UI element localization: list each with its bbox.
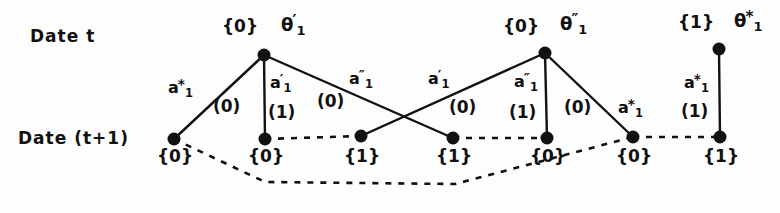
state-label-theta-double-prime: {0} (503, 18, 539, 35)
node-theta-star (713, 43, 726, 56)
action-label-a-star-1: a*1 (168, 78, 193, 99)
state-label-b4: {1} (436, 148, 472, 165)
solid-edge-group (174, 49, 720, 139)
solid-edge-e-theta1-b2 (264, 55, 265, 139)
state-label-b2: {0} (248, 148, 284, 165)
state-label-b6: {0} (616, 148, 652, 165)
node-b4 (447, 132, 460, 145)
theta-label-theta-double-prime: θ″1 (560, 13, 587, 36)
row-label-date-t: Date t (30, 28, 95, 45)
solid-edge-e-theta3-b7 (719, 49, 720, 137)
node-b2 (259, 133, 272, 146)
action-label-a-prime-2: a′1 (428, 69, 449, 90)
state-label-theta-star: {1} (678, 14, 714, 31)
node-theta-prime (258, 49, 271, 62)
state-label-b3: {1} (344, 148, 380, 165)
solid-edge-e-theta2-b5 (545, 53, 547, 138)
node-b6 (627, 131, 640, 144)
cost-label-c1: (0) (213, 98, 240, 115)
state-label-b5: {0} (530, 148, 566, 165)
row-label-date-t1: Date (t+1) (18, 130, 129, 147)
cost-label-c2: (1) (268, 104, 295, 121)
state-label-b7: {1} (703, 148, 739, 165)
cost-label-c4: (0) (449, 99, 476, 116)
action-label-a-star-2: a*1 (618, 98, 643, 119)
state-label-b1: {0} (157, 148, 193, 165)
action-label-a-dprime-2: a″1 (514, 72, 538, 93)
node-b1 (168, 133, 181, 146)
solid-edge-e-b3-theta2 (361, 53, 545, 136)
node-b7 (714, 131, 727, 144)
node-b5 (541, 132, 554, 145)
node-b3 (355, 130, 368, 143)
cost-label-c3: (0) (317, 93, 344, 110)
theta-label-theta-prime: θ′1 (281, 14, 305, 37)
node-theta-double-prime (539, 47, 552, 60)
action-label-a-star-3: a*1 (684, 73, 709, 94)
diagram-canvas (0, 0, 780, 213)
node-group (168, 43, 727, 146)
cost-label-c6: (0) (564, 99, 591, 116)
decision-tree-diagram: Date tDate (t+1){0}θ′1{0}θ″1{1}θ*1{0}{0}… (0, 0, 780, 213)
action-label-a-dprime-1: a″1 (349, 69, 373, 90)
dashed-edge-d-b2-b3 (265, 136, 361, 139)
state-label-theta-prime: {0} (222, 18, 258, 35)
cost-label-c7: (1) (681, 103, 708, 120)
cost-label-c5: (1) (509, 104, 536, 121)
theta-label-theta-star: θ*1 (734, 10, 762, 33)
solid-edge-e-theta2-b6 (545, 53, 633, 137)
action-label-a-prime-1: a′1 (270, 73, 291, 94)
